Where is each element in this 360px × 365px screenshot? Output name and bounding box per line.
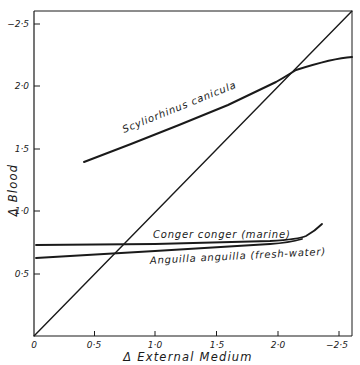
- conger-label: Conger conger (marine): [153, 229, 291, 240]
- x-tick-labels: 0 0·5 1·0 1·5 2·0 −2·5: [31, 340, 348, 350]
- chart: 0 0·5 1·0 1·5 2·0 −2·5 0·5 1·0 1·5 2·0 −…: [0, 0, 360, 365]
- x-tick-label: 1·5: [210, 340, 225, 350]
- y-tick-label: 0·5: [15, 269, 30, 279]
- x-tick-label: −2·5: [326, 340, 348, 350]
- y-tick-labels: 0·5 1·0 1·5 2·0 −2·5: [7, 19, 29, 279]
- x-tick-label: 1·0: [148, 340, 163, 350]
- y-axis-title: Δ Blood: [6, 164, 20, 217]
- scyliorhinus-label: Scyliorhinus canicula: [121, 79, 238, 135]
- y-tick-label: 2·0: [15, 81, 30, 91]
- scyliorhinus-line: [84, 57, 352, 162]
- x-ticks: [95, 331, 340, 336]
- x-tick-label: 2·0: [271, 340, 286, 350]
- x-tick-label: 0: [31, 340, 37, 350]
- anguilla-label: Anguilla anguilla (fresh-water): [149, 246, 327, 266]
- x-tick-label: 0·5: [87, 340, 102, 350]
- y-ticks: [34, 24, 40, 274]
- x-axis-title: Δ External Medium: [122, 350, 252, 364]
- y-tick-label: 1·5: [15, 144, 30, 154]
- isosmotic-line: [34, 11, 352, 336]
- series-lines: [34, 11, 352, 336]
- y-tick-label: −2·5: [7, 19, 29, 29]
